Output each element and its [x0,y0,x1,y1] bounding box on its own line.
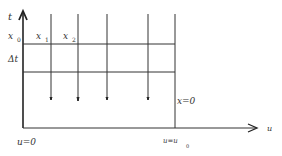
label-u-equals-u0: u=u 0 [163,137,189,149]
svg-text:x: x [63,31,68,41]
label-delta-t: Δt [7,54,18,64]
label-u-equals-zero: u=0 [17,137,36,147]
svg-text:1: 1 [45,36,49,43]
label-x-equals-zero: x=0 [177,96,196,106]
vertical-line-1 [50,14,52,100]
u-axis [23,124,257,132]
diagram-canvas: t x 0 x 1 x 2 Δt x=0 u=0 u=u 0 u [0,0,282,156]
svg-text:0: 0 [186,143,189,149]
svg-text:x: x [36,31,41,41]
u-axis-label: u [267,124,272,133]
label-x1: x 1 [36,31,49,43]
vertical-line-2 [77,14,79,101]
label-x2: x 2 [63,31,76,43]
svg-text:2: 2 [72,36,76,43]
vertical-line-3 [106,14,108,100]
svg-text:0: 0 [17,36,21,43]
vertical-line-4 [147,14,149,100]
svg-text:u=u: u=u [163,137,178,145]
t-axis-label: t [8,11,13,22]
t-axis [19,11,27,128]
svg-text:x: x [8,31,13,41]
label-x0: x 0 [8,31,21,43]
